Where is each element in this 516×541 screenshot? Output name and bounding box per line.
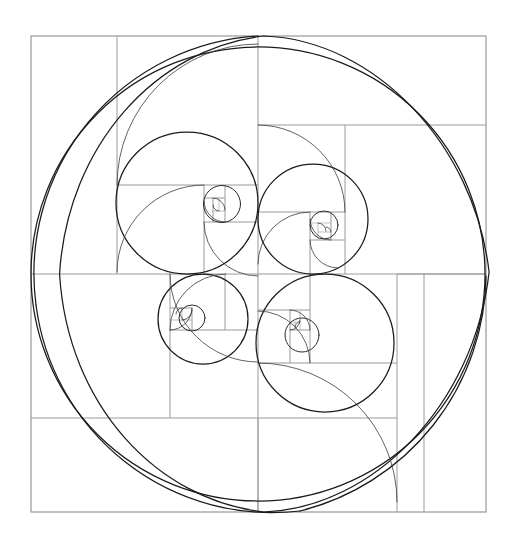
spiral-arc-ll-4 (182, 310, 192, 320)
spiral-lower-right-group (258, 310, 397, 502)
spiral-arc-ll-1 (170, 274, 258, 362)
spiral-upper-right-group (258, 125, 345, 268)
spiral-arc-ul-2 (117, 185, 204, 272)
nest-upper-left-small-circle (204, 186, 241, 223)
spiral-arc-ur-5 (318, 223, 326, 231)
spiral-arc-ur-4 (310, 219, 331, 240)
golden-spiral-arc-major-bottom (36, 305, 300, 513)
spiral-arc-ur-2 (258, 212, 310, 264)
spiral-arc-ll-2 (170, 274, 226, 330)
spiral-arc-ur-1 (258, 125, 345, 212)
lower-right-circle (256, 274, 394, 412)
spiral-upper-left-group (117, 44, 258, 276)
spiral-arc-ur-6 (326, 227, 331, 232)
upper-right-circle (258, 164, 368, 274)
spiral-arc-ul-6 (213, 205, 219, 211)
golden-spiral-arc-major-right (300, 276, 486, 511)
spiral-arc-lr-2 (258, 311, 310, 363)
upper-left-circle (116, 132, 258, 274)
quadrant-circles-group (116, 132, 394, 412)
spiral-arc-ul-1 (117, 44, 258, 185)
spiral-arc-ul-4 (204, 201, 225, 222)
grid-lines-group (31, 36, 486, 512)
spiral-arc-ul-3 (204, 222, 258, 276)
spiral-arc-lr-1 (258, 363, 397, 502)
figure-canvas (0, 0, 516, 541)
nest-upper-right-small-circle (310, 211, 338, 239)
lower-left-circle (158, 274, 248, 364)
spiral-lower-left-group (170, 274, 258, 362)
golden-ratio-diagram (0, 0, 516, 541)
spiral-arc-ur-3 (310, 240, 338, 268)
